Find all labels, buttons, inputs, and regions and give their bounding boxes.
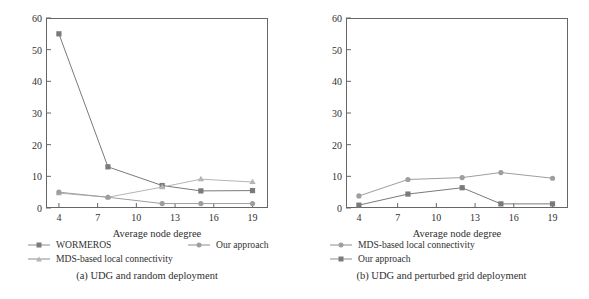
- panel-b-x-axis-title: Average node degree: [346, 228, 568, 239]
- data-point-marker: [198, 188, 203, 193]
- panel-a-x-axis-title: Average node degree: [46, 228, 268, 239]
- x-axis-tick-label: 13: [470, 212, 480, 223]
- y-axis-tick-label: 10: [32, 171, 42, 182]
- data-point-marker: [250, 201, 255, 206]
- data-point-marker: [250, 188, 255, 193]
- x-axis-tick-label: 19: [248, 212, 258, 223]
- x-axis-tick-label: 19: [548, 212, 558, 223]
- y-axis-tick-label: 0: [337, 203, 342, 214]
- data-point-marker: [405, 191, 410, 196]
- data-point-marker: [460, 175, 465, 180]
- x-axis-tick-label: 16: [209, 212, 219, 223]
- y-axis-tick-label: 50: [332, 44, 342, 55]
- data-point-marker: [105, 164, 110, 169]
- data-point-marker: [405, 177, 410, 182]
- data-point-marker: [498, 170, 503, 175]
- data-point-marker: [198, 176, 204, 181]
- legend-symbol-circle-icon: [188, 240, 210, 250]
- y-axis-tick-label: 30: [332, 108, 342, 119]
- legend-item-wormeros: WORMEROS: [28, 240, 111, 250]
- y-axis-tick-label: 20: [332, 139, 342, 150]
- legend-label-our-approach: Our approach: [216, 240, 268, 250]
- data-point-marker: [550, 176, 555, 181]
- panel-b-caption: (b) UDG and perturbed grid deployment: [294, 270, 589, 281]
- y-axis-tick-label: 60: [332, 13, 342, 24]
- panel-a-caption: (a) UDG and random deployment: [0, 270, 294, 281]
- x-axis-tick-label: 4: [56, 212, 61, 223]
- data-point-marker: [498, 201, 503, 206]
- panel-b-plot-area: 01020304050604710131619: [346, 18, 568, 208]
- legend-item-our-approach: Our approach: [188, 240, 268, 250]
- x-axis-tick-label: 10: [131, 212, 141, 223]
- x-axis-tick-label: 7: [95, 212, 100, 223]
- y-axis-tick-label: 40: [332, 76, 342, 87]
- panel-a-data-layer: [46, 18, 268, 208]
- legend-symbol-triangle-icon: [28, 254, 50, 264]
- legend-label-mds-based: MDS-based local connectivity: [56, 254, 173, 264]
- figure-two-panel-line-charts: Number of false positives 01020304050604…: [0, 0, 589, 299]
- data-point-marker: [105, 195, 110, 200]
- data-point-marker: [249, 179, 255, 184]
- x-axis-tick-label: 7: [395, 212, 400, 223]
- y-axis-tick-label: 30: [32, 108, 42, 119]
- data-point-marker: [460, 185, 465, 190]
- legend-label-wormeros: WORMEROS: [56, 240, 111, 250]
- legend-label-mds-based: MDS-based local connectivity: [358, 240, 475, 250]
- legend-symbol-circle-icon: [330, 240, 352, 250]
- data-point-marker: [356, 193, 361, 198]
- y-axis-tick-label: 0: [37, 203, 42, 214]
- legend-symbol-square-icon: [28, 240, 50, 250]
- panel-a-plot-area: 01020304050604710131619: [46, 18, 268, 208]
- x-axis-tick-label: 10: [431, 212, 441, 223]
- x-axis-tick-label: 4: [356, 212, 361, 223]
- y-axis-tick-label: 20: [32, 139, 42, 150]
- x-axis-tick-label: 16: [509, 212, 519, 223]
- legend-item-mds-based: MDS-based local connectivity: [330, 240, 475, 250]
- panel-b-udg-perturbed-grid-deployment: Number of false positives 01020304050604…: [294, 0, 589, 299]
- y-axis-tick-label: 50: [32, 44, 42, 55]
- legend-item-mds-based: MDS-based local connectivity: [28, 254, 173, 264]
- legend-symbol-square-icon: [330, 254, 352, 264]
- y-axis-tick-label: 40: [32, 76, 42, 87]
- data-point-marker: [550, 201, 555, 206]
- legend-label-our-approach: Our approach: [358, 254, 410, 264]
- x-axis-tick-label: 13: [170, 212, 180, 223]
- data-point-marker: [356, 203, 361, 208]
- data-point-marker: [56, 190, 61, 195]
- y-axis-tick-label: 10: [332, 171, 342, 182]
- data-point-marker: [160, 201, 165, 206]
- legend-item-our-approach: Our approach: [330, 254, 410, 264]
- panel-b-data-layer: [346, 18, 568, 208]
- data-point-marker: [56, 31, 61, 36]
- data-point-marker: [198, 201, 203, 206]
- y-axis-tick-label: 60: [32, 13, 42, 24]
- panel-a-udg-random-deployment: Number of false positives 01020304050604…: [0, 0, 294, 299]
